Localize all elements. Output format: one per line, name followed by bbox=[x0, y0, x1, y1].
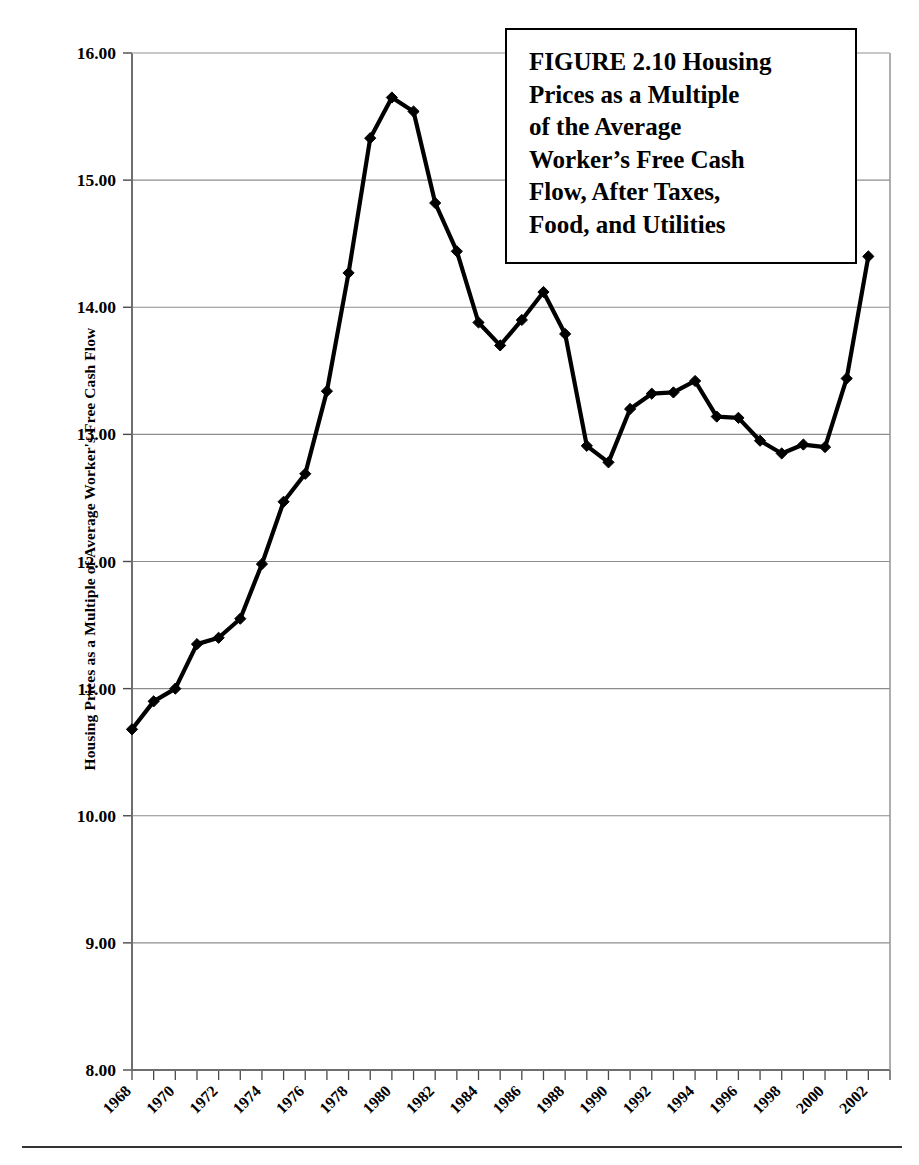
x-tick-label: 1976 bbox=[273, 1082, 308, 1117]
data-point-marker bbox=[819, 441, 830, 452]
y-tick-label: 12.00 bbox=[77, 552, 117, 572]
caption-line: Worker’s Free Cash bbox=[529, 144, 841, 177]
x-tick-label: 1980 bbox=[359, 1082, 394, 1117]
x-tick-label: 1972 bbox=[186, 1082, 221, 1117]
x-tick-label: 2002 bbox=[836, 1082, 871, 1117]
y-tick-label: 8.00 bbox=[85, 1060, 116, 1080]
data-point-marker bbox=[321, 386, 332, 397]
figure-caption-box: FIGURE 2.10 HousingPrices as a Multipleo… bbox=[505, 28, 857, 264]
y-tick-label: 13.00 bbox=[77, 424, 117, 444]
y-tick-label: 14.00 bbox=[77, 297, 117, 317]
caption-line: of the Average bbox=[529, 111, 841, 144]
y-tick-label: 11.00 bbox=[78, 679, 117, 699]
x-tick-label: 1982 bbox=[403, 1082, 438, 1117]
y-tick-label: 15.00 bbox=[77, 170, 117, 190]
x-tick-label: 1978 bbox=[316, 1082, 351, 1117]
x-tick-label: 1996 bbox=[706, 1082, 741, 1117]
data-point-marker bbox=[343, 267, 354, 278]
y-tick-label: 10.00 bbox=[77, 806, 117, 826]
y-axis-ticks-group bbox=[123, 53, 132, 1070]
x-tick-label: 1970 bbox=[143, 1082, 178, 1117]
x-tick-label: 1988 bbox=[533, 1082, 568, 1117]
x-tick-label: 1974 bbox=[229, 1082, 264, 1117]
data-point-marker bbox=[863, 251, 874, 262]
data-point-marker bbox=[256, 558, 267, 569]
x-tick-label: 1968 bbox=[99, 1082, 134, 1117]
x-tick-label: 1992 bbox=[619, 1082, 654, 1117]
data-point-marker bbox=[798, 439, 809, 450]
bottom-divider-rule bbox=[22, 1146, 902, 1148]
x-axis-tick-labels: 1968197019721974197619781980198219841986… bbox=[99, 1082, 870, 1117]
caption-line: FIGURE 2.10 Housing bbox=[529, 46, 841, 79]
x-tick-label: 1990 bbox=[576, 1082, 611, 1117]
caption-line: Prices as a Multiple bbox=[529, 79, 841, 112]
x-tick-label: 1986 bbox=[489, 1082, 524, 1117]
x-tick-label: 1994 bbox=[663, 1082, 698, 1117]
y-tick-label: 16.00 bbox=[77, 43, 117, 63]
figure-container: Housing Prices as a Multiple of Average … bbox=[0, 0, 919, 1165]
caption-line: Food, and Utilities bbox=[529, 209, 841, 242]
x-tick-label: 1998 bbox=[749, 1082, 784, 1117]
y-axis-tick-labels: 16.0015.0014.0013.0012.0011.0010.009.008… bbox=[77, 43, 117, 1080]
figure-caption-text: FIGURE 2.10 HousingPrices as a Multipleo… bbox=[529, 46, 841, 241]
caption-line: Flow, After Taxes, bbox=[529, 176, 841, 209]
x-tick-label: 2000 bbox=[793, 1082, 828, 1117]
x-tick-label: 1984 bbox=[446, 1082, 481, 1117]
y-tick-label: 9.00 bbox=[85, 933, 116, 953]
data-point-marker bbox=[841, 373, 852, 384]
x-axis-ticks-group bbox=[132, 1070, 890, 1080]
